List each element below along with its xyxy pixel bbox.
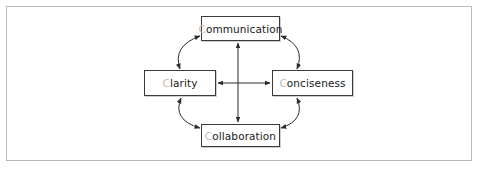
node-label: onciseness xyxy=(287,77,346,89)
arrow-clarity-collaboration xyxy=(179,98,200,128)
node-label: larity xyxy=(170,77,198,89)
node-initial: C xyxy=(205,130,212,142)
arrow-conciseness-collaboration xyxy=(281,98,299,128)
node-conciseness: Conciseness xyxy=(272,70,353,96)
node-label: ommunication xyxy=(206,23,283,35)
node-clarity: Clarity xyxy=(144,70,216,96)
node-collaboration: Collaboration xyxy=(201,124,280,147)
node-initial: C xyxy=(163,77,170,89)
node-communication: Communication xyxy=(201,16,280,41)
node-label: ollaboration xyxy=(212,130,276,142)
node-initial: C xyxy=(198,23,205,35)
arrow-communication-clarity xyxy=(178,36,200,69)
arrow-communication-conciseness xyxy=(281,36,299,69)
node-initial: C xyxy=(279,77,286,89)
